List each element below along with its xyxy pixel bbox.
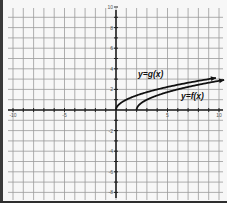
y-tick-label: -8 [109,189,114,195]
x-tick-label: -10 [9,112,16,118]
coordinate-plane: -10-5510108642-2-4-6-8y=g(x)y=f(x) [0,0,227,208]
x-tick-label: 10 [216,112,222,118]
y-tick-label: 6 [110,45,113,51]
x-tick-label: -5 [62,112,67,118]
y-tick-label: 4 [110,66,113,72]
y-tick-label: 8 [110,25,113,31]
y-tick-label: -2 [109,128,114,134]
y-tick-label: 2 [110,86,113,92]
y-tick-label: -4 [109,148,114,154]
label-g: y=g(x) [137,69,163,79]
bottom-margin [0,203,227,208]
x-tick-label: 5 [166,112,169,118]
y-tick-label: 10 [107,4,113,10]
y-tick-label: -6 [109,169,114,175]
label-f: y=f(x) [180,91,204,101]
